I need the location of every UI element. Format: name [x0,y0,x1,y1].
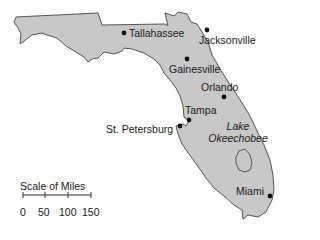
city-label-tampa: Tampa [185,105,217,116]
city-label-tallahassee: Tallahassee [129,28,184,39]
scale-tick-150: 150 [82,206,100,218]
scale-tick-50: 50 [38,206,50,218]
miami-marker-icon [268,194,273,199]
lake-label-line1: Lake [196,120,280,132]
city-label-jacksonville: Jacksonville [199,35,256,46]
gainesville-marker-icon [185,57,190,62]
lake-label-line2: Okeechobee [196,132,280,144]
city-label-st-petersburg: St. Petersburg [106,124,173,135]
lake-okeechobee-label: Lake Okeechobee [196,120,280,144]
city-label-miami: Miami [236,186,264,197]
tallahassee-marker-icon [122,31,127,36]
scale-tick-100: 100 [59,206,77,218]
st-petersburg-marker-icon [178,124,183,129]
scale-bar [23,192,91,198]
city-label-gainesville: Gainesville [169,64,220,75]
city-label-orlando: Orlando [201,82,238,93]
scale-tick-0: 0 [20,206,26,218]
scale-title: Scale of Miles [20,180,85,192]
tampa-marker-icon [187,118,192,123]
jacksonville-marker-icon [205,28,210,33]
orlando-marker-icon [222,95,227,100]
